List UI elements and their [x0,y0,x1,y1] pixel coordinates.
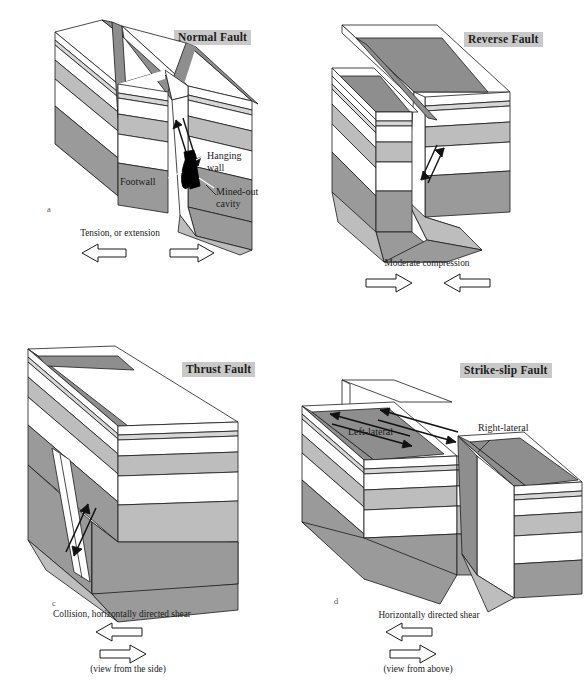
label-hanging-wall: Hanging wall [207,150,241,173]
label-left-lateral: Left-lateral [348,426,393,438]
arrow-left-icon [96,623,142,641]
panel-strike-slip-fault: Strike-slip Fault d [292,344,584,688]
subcaption-view-from-above: (view from above) [338,664,498,674]
subcaption-view-from-the-side: (view from the side) [48,664,208,674]
caption-moderate-compression: Moderate compression [332,258,522,268]
arrow-pair-shear [378,622,488,668]
arrow-left-icon [444,274,490,292]
arrow-pair-compression [354,270,504,296]
arrow-left-icon [386,623,432,641]
caption-horizontally-directed-shear: Horizontally directed shear [324,610,534,620]
normal-fault-block-diagram [0,0,292,344]
arrow-left-icon [82,244,126,262]
arrow-pair-tension [78,240,218,266]
caption-collision: Collision, horizontally directed shear [12,609,232,619]
label-right-lateral: Right-lateral [478,422,529,434]
arrow-right-icon [366,274,412,292]
arrow-right-icon [170,244,214,262]
arrow-right-icon [100,645,146,663]
caption-tension: Tension, or extension [30,228,210,238]
panel-reverse-fault: Reverse Fault b [292,0,584,344]
arrow-pair-collision [88,622,198,668]
panel-thrust-fault: Thrust Fault c [0,344,292,688]
arrow-right-icon [390,645,436,663]
label-footwall: Footwall [120,176,156,188]
panel-normal-fault: Normal Fault a [0,0,292,344]
label-mined-out-cavity: Mined-out cavity [216,186,258,209]
